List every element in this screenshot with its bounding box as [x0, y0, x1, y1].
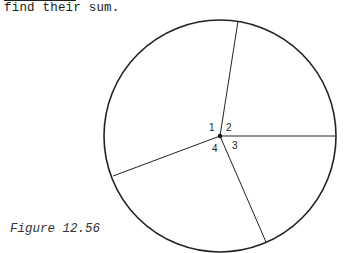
- figure-caption: Figure 12.56: [10, 222, 100, 236]
- radius-bottom-right: [220, 136, 266, 242]
- circle-figure: 1 2 3 4: [0, 0, 343, 253]
- angle-label-4: 4: [212, 143, 218, 154]
- angle-label-2: 2: [226, 122, 232, 133]
- radius-top: [220, 21, 238, 136]
- angle-label-1: 1: [209, 122, 215, 133]
- center-point: [218, 134, 222, 138]
- angle-label-3: 3: [232, 140, 238, 151]
- radius-left: [113, 136, 220, 176]
